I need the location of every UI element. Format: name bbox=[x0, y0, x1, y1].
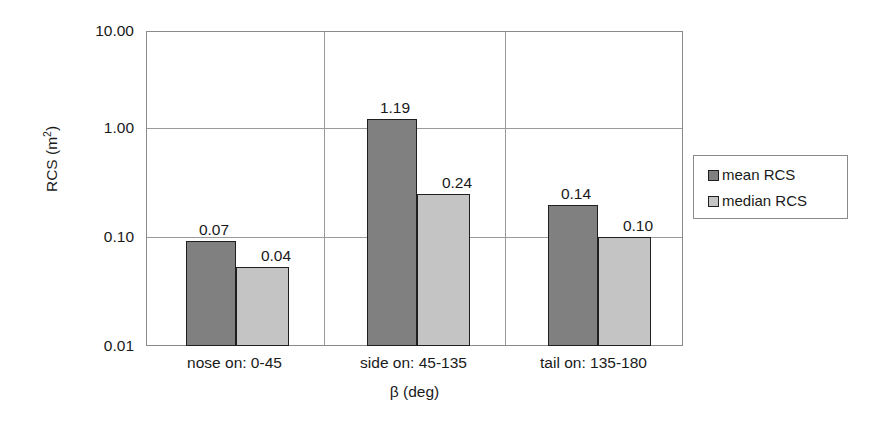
rcs-bar-chart: 10.00 1.00 0.10 0.01 RCS (m2) 0.07 0.04 … bbox=[0, 0, 878, 432]
y-axis-title-base: RCS (m bbox=[43, 137, 60, 192]
legend-label-mean: mean RCS bbox=[722, 167, 795, 183]
x-axis-title: β (deg) bbox=[146, 383, 683, 401]
legend-label-median: median RCS bbox=[722, 193, 807, 209]
bar-value-mean-tail-on: 0.14 bbox=[517, 186, 635, 202]
y-axis-title-exponent: 2 bbox=[41, 131, 53, 137]
bar-value-median-tail-on: 0.10 bbox=[579, 218, 697, 234]
category-separator-1 bbox=[324, 32, 325, 345]
bar-median-side-on[interactable] bbox=[417, 194, 470, 346]
chart-legend: mean RCS median RCS bbox=[693, 155, 848, 219]
bar-mean-side-on[interactable] bbox=[367, 119, 417, 346]
legend-item-mean-rcs[interactable]: mean RCS bbox=[708, 167, 795, 183]
bar-median-tail-on[interactable] bbox=[598, 237, 651, 346]
x-axis-tick-nose-on: nose on: 0-45 bbox=[146, 354, 323, 372]
y-axis-title-close: ) bbox=[43, 126, 60, 131]
y-axis-title: RCS (m2) bbox=[43, 69, 61, 249]
x-axis-tick-side-on: side on: 45-135 bbox=[323, 354, 504, 372]
y-axis-tick-label: 1.00 bbox=[70, 120, 134, 136]
legend-swatch-icon-mean bbox=[708, 170, 719, 181]
bar-value-median-side-on: 0.24 bbox=[398, 175, 516, 191]
y-axis-tick-label: 10.00 bbox=[70, 23, 134, 39]
y-axis-tick-label: 0.10 bbox=[70, 229, 134, 245]
y-axis-tick-label: 0.01 bbox=[70, 338, 134, 354]
x-axis-tick-tail-on: tail on: 135-180 bbox=[504, 354, 683, 372]
bar-median-nose-on[interactable] bbox=[236, 267, 289, 346]
legend-item-median-rcs[interactable]: median RCS bbox=[708, 193, 807, 209]
bar-value-median-nose-on: 0.04 bbox=[217, 248, 335, 264]
bar-value-mean-nose-on: 0.07 bbox=[155, 222, 273, 238]
bar-value-mean-side-on: 1.19 bbox=[336, 100, 454, 116]
legend-swatch-icon-median bbox=[708, 196, 719, 207]
